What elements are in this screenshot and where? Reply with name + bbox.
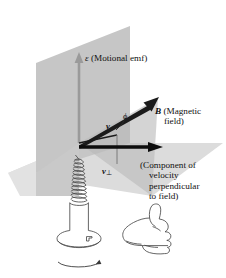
perp-line2: velocity	[140, 170, 226, 180]
b-symbol: B	[155, 106, 161, 116]
b-field-label: B (Magnetic field)	[155, 106, 225, 127]
figure-canvas	[0, 0, 226, 278]
b-text-line1: (Magnetic	[163, 106, 201, 116]
vperp-subscript: ⊥	[106, 169, 112, 176]
emf-symbol: ε	[85, 53, 89, 63]
perp-line1: (Component of	[140, 160, 226, 170]
rotation-arrow	[58, 260, 101, 267]
emf-label: ε (Motional emf)	[85, 53, 147, 63]
emf-text: (Motional emf)	[91, 53, 147, 63]
v-symbol: v	[106, 121, 110, 131]
perpendicular-component-label: (Component of velocity perpendicular to …	[140, 160, 226, 201]
perp-line4: to field)	[140, 191, 226, 201]
b-text-line2: field)	[155, 116, 225, 126]
perp-line3: perpendicular	[140, 181, 226, 191]
phi-label: ϕ	[123, 112, 127, 121]
right-hand-thumbs-up	[123, 204, 171, 254]
vperp-label: v⊥	[102, 167, 112, 177]
phi-symbol: ϕ	[123, 112, 127, 121]
v-label: v	[106, 122, 110, 132]
